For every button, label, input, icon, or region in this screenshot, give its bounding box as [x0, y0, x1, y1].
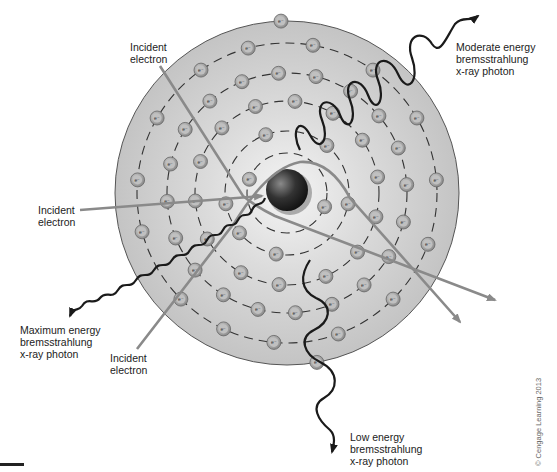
svg-text:e⁻: e⁻ [271, 339, 277, 345]
label-low-photon: Low energy bremsstrahlung x-ray photon [350, 431, 422, 467]
electron: e⁻ [194, 155, 208, 169]
electron: e⁻ [319, 269, 333, 283]
svg-text:e⁻: e⁻ [220, 292, 226, 298]
electron: e⁻ [241, 41, 255, 55]
electron: e⁻ [288, 306, 302, 320]
svg-text:e⁻: e⁻ [329, 301, 335, 307]
svg-text:e⁻: e⁻ [395, 145, 401, 151]
svg-text:e⁻: e⁻ [292, 310, 298, 316]
electron: e⁻ [421, 237, 435, 251]
svg-text:e⁻: e⁻ [313, 74, 319, 80]
svg-text:e⁻: e⁻ [359, 137, 365, 143]
svg-text:e⁻: e⁻ [361, 282, 367, 288]
label-incident-electron-bottom: Incident electron [110, 352, 147, 376]
svg-text:e⁻: e⁻ [400, 219, 406, 225]
svg-text:e⁻: e⁻ [330, 110, 336, 116]
svg-text:e⁻: e⁻ [219, 125, 225, 131]
label-incident-electron-left: Incident electron [38, 204, 75, 228]
electron: e⁻ [160, 194, 174, 208]
svg-text:e⁻: e⁻ [198, 159, 204, 165]
electron: e⁻ [131, 173, 145, 187]
svg-text:e⁻: e⁻ [425, 241, 431, 247]
electron: e⁻ [251, 302, 265, 316]
electron: e⁻ [215, 121, 229, 135]
svg-text:e⁻: e⁻ [237, 230, 243, 236]
electron: e⁻ [178, 122, 192, 136]
electron: e⁻ [344, 84, 358, 98]
electron: e⁻ [135, 225, 149, 239]
electron: e⁻ [309, 70, 323, 84]
svg-text:e⁻: e⁻ [376, 113, 382, 119]
svg-text:e⁻: e⁻ [373, 214, 379, 220]
electron: e⁻ [391, 141, 405, 155]
svg-text:e⁻: e⁻ [292, 98, 298, 104]
svg-text:e⁻: e⁻ [135, 177, 141, 183]
electron: e⁻ [274, 14, 288, 28]
electron: e⁻ [272, 278, 286, 292]
electron: e⁻ [272, 66, 286, 80]
svg-text:e⁻: e⁻ [223, 201, 229, 207]
svg-text:e⁻: e⁻ [355, 249, 361, 255]
svg-text:e⁻: e⁻ [414, 115, 420, 121]
svg-text:e⁻: e⁻ [221, 326, 227, 332]
svg-text:e⁻: e⁻ [335, 331, 341, 337]
electron: e⁻ [429, 173, 443, 187]
svg-text:e⁻: e⁻ [246, 176, 252, 182]
svg-text:e⁻: e⁻ [345, 201, 351, 207]
electron: e⁻ [400, 178, 414, 192]
svg-text:e⁻: e⁻ [323, 273, 329, 279]
electron: e⁻ [217, 322, 231, 336]
svg-text:e⁻: e⁻ [433, 177, 439, 183]
electron: e⁻ [396, 215, 410, 229]
svg-text:e⁻: e⁻ [390, 296, 396, 302]
svg-text:e⁻: e⁻ [404, 182, 410, 188]
svg-text:e⁻: e⁻ [273, 251, 279, 257]
svg-text:e⁻: e⁻ [139, 229, 145, 235]
electron: e⁻ [306, 38, 320, 52]
svg-text:e⁻: e⁻ [278, 18, 284, 24]
electron: e⁻ [410, 111, 424, 125]
electron: e⁻ [235, 75, 249, 89]
svg-text:e⁻: e⁻ [168, 161, 174, 167]
electron: e⁻ [242, 172, 256, 186]
svg-text:e⁻: e⁻ [245, 45, 251, 51]
electron: e⁻ [269, 247, 283, 261]
copyright: © Cengage Learning 2013 [534, 378, 543, 466]
electron: e⁻ [371, 170, 385, 184]
svg-text:e⁻: e⁻ [239, 79, 245, 85]
electron: e⁻ [320, 139, 334, 153]
electron: e⁻ [386, 292, 400, 306]
svg-text:e⁻: e⁻ [173, 235, 179, 241]
electron: e⁻ [341, 197, 355, 211]
svg-text:e⁻: e⁻ [263, 132, 269, 138]
electron: e⁻ [216, 288, 230, 302]
svg-text:e⁻: e⁻ [255, 306, 261, 312]
electron: e⁻ [372, 109, 386, 123]
electron: e⁻ [150, 111, 164, 125]
svg-text:e⁻: e⁻ [253, 104, 259, 110]
svg-text:e⁻: e⁻ [375, 174, 381, 180]
svg-text:e⁻: e⁻ [324, 143, 330, 149]
electron: e⁻ [249, 100, 263, 114]
svg-text:e⁻: e⁻ [276, 70, 282, 76]
electron: e⁻ [267, 335, 281, 349]
svg-text:e⁻: e⁻ [207, 98, 213, 104]
electron: e⁻ [169, 231, 183, 245]
svg-text:e⁻: e⁻ [310, 42, 316, 48]
electron: e⁻ [203, 94, 217, 108]
svg-text:e⁻: e⁻ [154, 115, 160, 121]
electron: e⁻ [318, 200, 332, 214]
svg-text:e⁻: e⁻ [198, 67, 204, 73]
label-maximum-photon: Maximum energy bremsstrahlung x-ray phot… [20, 324, 101, 360]
svg-text:e⁻: e⁻ [238, 270, 244, 276]
svg-text:e⁻: e⁻ [322, 204, 328, 210]
svg-text:e⁻: e⁻ [182, 126, 188, 132]
svg-text:e⁻: e⁻ [276, 282, 282, 288]
scale-bar [0, 463, 24, 466]
electron: e⁻ [357, 278, 371, 292]
electron: e⁻ [331, 327, 345, 341]
electron: e⁻ [233, 226, 247, 240]
label-incident-electron-top: Incident electron [130, 41, 167, 65]
electron: e⁻ [326, 106, 340, 120]
electron: e⁻ [355, 133, 369, 147]
